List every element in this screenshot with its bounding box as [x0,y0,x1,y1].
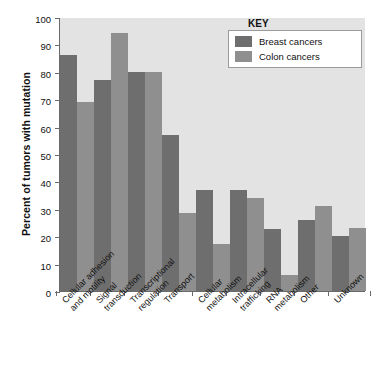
legend-box: Breast cancersColon cancers [228,30,362,68]
y-tick-label: 20 [40,233,51,244]
legend-label: Breast cancers [259,36,322,47]
y-tick-label: 100 [35,14,51,25]
y-tick-label: 60 [40,123,51,134]
y-axis-title: Percent of tumors with mutation [20,34,32,274]
y-tick-label: 80 [40,68,51,79]
x-tick [56,291,57,296]
y-tick-label: 10 [40,260,51,271]
bar-chart: Percent of tumors with mutation 01020304… [0,0,391,381]
legend-item: Breast cancers [235,36,354,47]
y-tick-label: 0 [46,288,51,299]
y-tick-label: 90 [40,41,51,52]
legend-title: KEY [248,18,362,29]
y-tick-label: 30 [40,205,51,216]
x-axis-labels: Cellular adhesionand motilitySignaltrans… [59,296,365,381]
y-tick-label: 50 [40,151,51,162]
bar-breast [196,190,213,291]
x-tick [370,291,371,296]
bar-group [162,18,196,291]
bar-colon [145,72,162,291]
legend-item: Colon cancers [235,51,354,62]
y-tick-label: 40 [40,178,51,189]
bar-colon [315,206,332,291]
legend-label: Colon cancers [259,51,320,62]
bar-group [60,18,94,291]
bar-breast [128,72,145,291]
legend-swatch [235,51,252,62]
bar-group [196,18,230,291]
legend: KEY Breast cancersColon cancers [228,18,362,68]
bar-breast [60,55,77,291]
legend-swatch [235,36,252,47]
y-tick-label: 70 [40,96,51,107]
bar-group [128,18,162,291]
bar-colon [77,102,94,291]
